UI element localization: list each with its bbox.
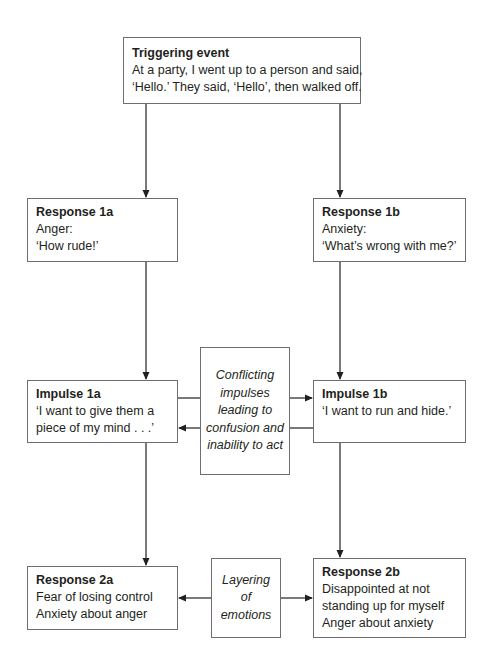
response-2a-title: Response 2a — [36, 572, 169, 589]
impulse-1b-title: Impulse 1b — [322, 386, 457, 403]
response-1b-line: Anxiety: — [322, 221, 457, 238]
response-2b-line: Anger about anxiety — [322, 615, 457, 632]
layering-note-line: emotions — [221, 607, 272, 625]
conflicting-impulses-note: Conflicting impulses leading to confusio… — [200, 347, 290, 475]
triggering-event-line: At a party, I went up to a person and sa… — [132, 62, 352, 79]
response-1b-box: Response 1b Anxiety: ‘What’s wrong with … — [313, 198, 466, 262]
layering-note-line: Layering — [222, 572, 270, 590]
response-1b-title: Response 1b — [322, 204, 457, 221]
impulse-1a-box: Impulse 1a ‘I want to give them a piece … — [27, 380, 178, 443]
response-2a-box: Response 2a Fear of losing control Anxie… — [27, 566, 178, 630]
impulse-1a-title: Impulse 1a — [36, 386, 169, 403]
response-1a-line: ‘How rude!’ — [36, 238, 169, 255]
triggering-event-title: Triggering event — [132, 45, 352, 62]
triggering-event-box: Triggering event At a party, I went up t… — [123, 37, 361, 104]
response-1b-line: ‘What’s wrong with me?’ — [322, 238, 457, 255]
response-2b-title: Response 2b — [322, 564, 457, 581]
conflict-note-line: confusion and — [206, 420, 284, 438]
response-1a-box: Response 1a Anger: ‘How rude!’ — [27, 198, 178, 262]
conflict-note-line: inability to act — [207, 437, 283, 455]
impulse-1a-line: piece of my mind . . .’ — [36, 420, 169, 437]
impulse-1b-box: Impulse 1b ‘I want to run and hide.’ — [313, 380, 466, 443]
response-2b-line: standing up for myself — [322, 598, 457, 615]
conflict-note-line: Conflicting — [216, 367, 274, 385]
layering-note-line: of — [241, 589, 251, 607]
impulse-1a-line: ‘I want to give them a — [36, 403, 169, 420]
response-1a-line: Anger: — [36, 221, 169, 238]
response-2b-box: Response 2b Disappointed at not standing… — [313, 558, 466, 638]
layering-of-emotions-note: Layering of emotions — [211, 558, 281, 638]
response-2b-line: Disappointed at not — [322, 581, 457, 598]
conflict-note-line: leading to — [218, 402, 272, 420]
impulse-1b-line: ‘I want to run and hide.’ — [322, 403, 457, 420]
response-2a-line: Fear of losing control — [36, 589, 169, 606]
response-2a-line: Anxiety about anger — [36, 606, 169, 623]
response-1a-title: Response 1a — [36, 204, 169, 221]
conflict-note-line: impulses — [220, 385, 269, 403]
triggering-event-line: ‘Hello.’ They said, ‘Hello’, then walked… — [132, 79, 352, 96]
